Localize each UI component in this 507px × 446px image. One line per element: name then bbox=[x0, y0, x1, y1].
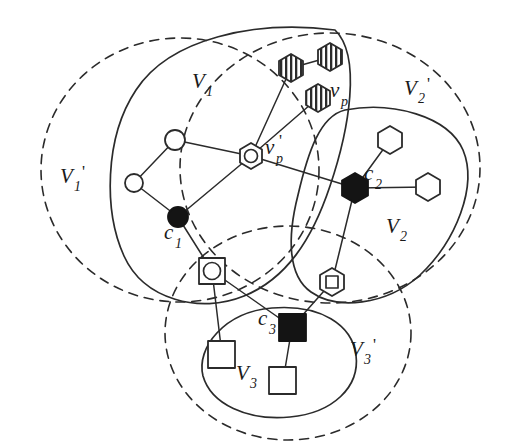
edge-vp-prime-c2 bbox=[251, 156, 355, 188]
node-vp-prime[interactable] bbox=[240, 143, 262, 169]
node-square-left[interactable] bbox=[208, 341, 235, 368]
partition-diagram: V 1 ' V 2 ' V 3 ' V 1 V 2 V 3 c bbox=[0, 0, 507, 446]
label-region-V3: V 3 bbox=[236, 361, 257, 391]
label-c2-sub: 2 bbox=[375, 177, 382, 192]
figure-root: V 1 ' V 2 ' V 3 ' V 1 V 2 V 3 c bbox=[0, 0, 507, 446]
edge-c2-sq-in-hex bbox=[332, 188, 355, 282]
label-region-V3-prime-base: V bbox=[350, 337, 365, 361]
label-c3-base: c bbox=[258, 306, 268, 330]
label-region-V2-sub: 2 bbox=[400, 229, 407, 244]
label-region-V2-prime-sub: 2 bbox=[418, 91, 425, 106]
region-V1-outline bbox=[110, 27, 350, 303]
label-vp-prime-mark: ' bbox=[279, 131, 282, 150]
label-region-V1-prime: V 1 ' bbox=[60, 162, 85, 194]
node-vp-prime-circle bbox=[245, 150, 258, 163]
label-region-V3-prime-sub: 3 bbox=[363, 352, 371, 367]
label-c3: c 3 bbox=[258, 306, 276, 337]
node-hexagon-upper[interactable] bbox=[378, 126, 402, 154]
label-region-V1-prime-mark: ' bbox=[82, 162, 85, 181]
label-region-V1-sub: 1 bbox=[206, 84, 213, 99]
node-circle-in-square-inner bbox=[204, 263, 221, 280]
label-region-V1: V 1 bbox=[192, 69, 213, 99]
label-region-V3-prime-mark: ' bbox=[373, 335, 376, 354]
label-c1-sub: 1 bbox=[175, 236, 182, 251]
node-c3-center[interactable] bbox=[279, 314, 306, 341]
label-region-V3-prime: V 3 ' bbox=[350, 335, 376, 367]
node-square-in-hexagon[interactable] bbox=[320, 268, 344, 296]
label-region-V2-base: V bbox=[386, 214, 401, 238]
label-c3-sub: 3 bbox=[268, 322, 276, 337]
node-circle-in-square[interactable] bbox=[199, 258, 225, 284]
node-hatched-hexagon-left[interactable] bbox=[279, 54, 303, 82]
label-c2-base: c bbox=[364, 161, 374, 185]
label-vp-prime-sub: p bbox=[275, 151, 283, 166]
node-square-in-hexagon-inner bbox=[326, 276, 338, 288]
edge-c1-vp-prime bbox=[178, 156, 251, 217]
node-labels: c 1 c 2 c 3 v p v p ' bbox=[164, 78, 382, 337]
node-vp[interactable] bbox=[306, 84, 330, 112]
node-hexagon-right[interactable] bbox=[416, 173, 440, 201]
label-region-V1-prime-base: V bbox=[60, 164, 75, 188]
label-c1-base: c bbox=[164, 220, 174, 244]
label-vp-prime-base: v bbox=[265, 135, 275, 159]
label-region-V2: V 2 bbox=[386, 214, 407, 244]
label-vp: v p bbox=[330, 78, 348, 109]
node-hatched-hexagon-right[interactable] bbox=[318, 43, 342, 71]
label-region-V2-prime-base: V bbox=[404, 76, 419, 100]
node-circle-top[interactable] bbox=[165, 130, 185, 150]
node-circle-left[interactable] bbox=[125, 174, 143, 192]
label-region-V1-prime-sub: 1 bbox=[74, 179, 81, 194]
label-region-V1-base: V bbox=[192, 69, 207, 93]
label-region-V2-prime: V 2 ' bbox=[404, 74, 430, 106]
label-vp-base: v bbox=[330, 78, 340, 102]
label-region-V3-sub: 3 bbox=[249, 376, 257, 391]
label-region-V3-base: V bbox=[236, 361, 251, 385]
node-square-bottom[interactable] bbox=[269, 367, 296, 394]
label-region-V2-prime-mark: ' bbox=[427, 74, 430, 93]
label-vp-sub: p bbox=[340, 94, 348, 109]
